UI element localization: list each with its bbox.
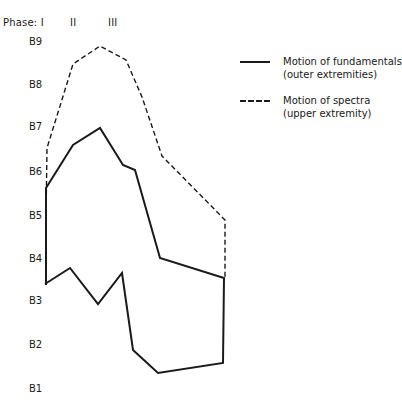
legend-label-fundamentals: Motion of fundamentals (283, 55, 402, 68)
y-tick-b8: B8 (29, 79, 42, 91)
phase-ii-label: II (70, 17, 76, 29)
phase-iii-label: III (108, 17, 117, 29)
fundamentals-solid-line (45, 128, 224, 373)
legend-sublabel-spectra: (upper extremity) (283, 107, 372, 120)
y-tick-b4: B4 (29, 253, 42, 265)
legend-sublabel-fundamentals: (outer extremities) (283, 68, 402, 81)
y-tick-b3: B3 (29, 295, 42, 307)
dashed-line-swatch-icon (240, 100, 270, 102)
spectra-dashed-line (46, 46, 225, 278)
phase-label: Phase: I (3, 17, 44, 29)
y-tick-b1: B1 (29, 383, 42, 395)
y-tick-b9: B9 (29, 36, 42, 48)
y-tick-b7: B7 (29, 121, 42, 133)
y-tick-b6: B6 (29, 166, 42, 178)
solid-line-swatch-icon (240, 61, 270, 63)
y-tick-b5: B5 (29, 210, 42, 222)
legend-label-spectra: Motion of spectra (283, 94, 372, 107)
y-tick-b2: B2 (29, 339, 42, 351)
